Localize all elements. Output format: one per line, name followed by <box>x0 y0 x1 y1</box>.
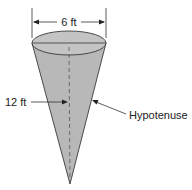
hypotenuse-label: Hypotenuse <box>129 109 188 121</box>
arrowhead-right-icon <box>99 20 105 25</box>
diameter-label: 6 ft <box>61 16 76 28</box>
arrowhead-left-icon <box>33 20 39 25</box>
cone-diagram: 6 ft 12 ft Hypotenuse <box>0 0 192 190</box>
hypotenuse-pointer-line <box>96 102 126 114</box>
height-label: 12 ft <box>5 96 26 108</box>
